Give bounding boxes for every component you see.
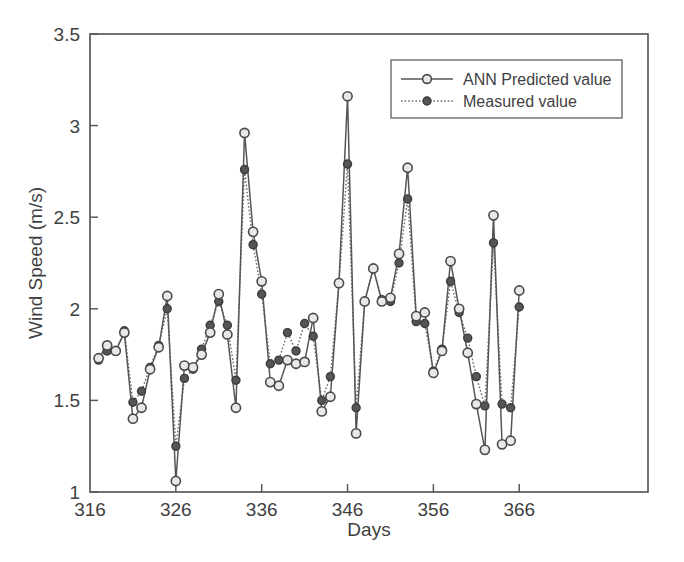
y-axis-tick-labels: 11.522.533.5 — [54, 24, 80, 503]
data-point-measured — [352, 404, 360, 412]
data-point-measured — [232, 376, 240, 384]
x-tick-label: 326 — [160, 499, 192, 520]
data-point-predicted — [94, 354, 103, 363]
data-point-predicted — [437, 346, 446, 355]
data-point-predicted — [231, 403, 240, 412]
data-point-predicted — [455, 304, 464, 313]
data-point-measured — [464, 334, 472, 342]
data-point-measured — [292, 347, 300, 355]
data-point-predicted — [249, 227, 258, 236]
data-point-predicted — [111, 346, 120, 355]
data-point-predicted — [154, 343, 163, 352]
data-point-predicted — [420, 308, 429, 317]
data-point-predicted — [480, 445, 489, 454]
data-point-predicted — [326, 392, 335, 401]
data-point-measured — [258, 290, 266, 298]
data-point-predicted — [223, 330, 232, 339]
data-point-measured — [507, 404, 515, 412]
x-axis-title: Days — [347, 519, 390, 540]
legend-label-predicted: ANN Predicted value — [463, 71, 612, 88]
data-point-predicted — [334, 279, 343, 288]
data-point-predicted — [515, 286, 524, 295]
data-point-measured — [489, 239, 497, 247]
data-point-measured — [404, 195, 412, 203]
x-axis-tick-labels: 316326336346356366 — [74, 499, 535, 520]
data-point-predicted — [429, 368, 438, 377]
data-point-predicted — [472, 399, 481, 408]
legend-swatch-measured-marker — [423, 97, 431, 105]
x-tick-label: 336 — [246, 499, 278, 520]
data-point-measured — [309, 332, 317, 340]
y-axis-title: Wind Speed (m/s) — [25, 187, 46, 339]
data-point-predicted — [309, 313, 318, 322]
data-point-predicted — [188, 363, 197, 372]
data-point-measured — [318, 396, 326, 404]
series-predicted-line — [99, 96, 520, 481]
data-point-predicted — [463, 348, 472, 357]
data-point-measured — [223, 321, 231, 329]
series-line-predicted — [99, 96, 520, 481]
data-point-predicted — [128, 414, 137, 423]
data-point-measured — [301, 319, 309, 327]
data-point-predicted — [343, 92, 352, 101]
data-point-predicted — [180, 361, 189, 370]
data-point-predicted — [291, 359, 300, 368]
data-point-predicted — [506, 436, 515, 445]
data-point-predicted — [145, 365, 154, 374]
data-point-predicted — [103, 341, 112, 350]
data-point-predicted — [386, 293, 395, 302]
data-point-predicted — [163, 291, 172, 300]
data-point-measured — [421, 319, 429, 327]
data-point-predicted — [257, 277, 266, 286]
data-point-measured — [129, 398, 137, 406]
data-point-measured — [163, 305, 171, 313]
data-point-predicted — [240, 128, 249, 137]
data-point-measured — [472, 373, 480, 381]
y-tick-label: 2 — [69, 299, 80, 320]
data-point-predicted — [489, 211, 498, 220]
data-point-measured — [138, 387, 146, 395]
x-tick-label: 346 — [332, 499, 364, 520]
data-point-measured — [326, 373, 334, 381]
data-point-predicted — [360, 297, 369, 306]
data-point-measured — [275, 356, 283, 364]
data-point-measured — [447, 277, 455, 285]
data-point-measured — [498, 400, 506, 408]
data-point-predicted — [214, 290, 223, 299]
chart-legend[interactable]: ANN Predicted value Measured value — [391, 60, 622, 118]
y-tick-label: 3 — [69, 116, 80, 137]
data-point-measured — [266, 360, 274, 368]
data-point-predicted — [137, 403, 146, 412]
data-point-predicted — [352, 429, 361, 438]
data-point-measured — [172, 442, 180, 450]
data-point-predicted — [300, 357, 309, 366]
data-point-predicted — [446, 257, 455, 266]
y-tick-label: 3.5 — [54, 24, 80, 45]
wind-speed-line-chart: 11.522.533.5 316326336346356366 Days Win… — [0, 0, 684, 562]
data-point-predicted — [120, 328, 129, 337]
x-tick-label: 316 — [74, 499, 106, 520]
data-point-measured — [283, 329, 291, 337]
data-point-measured — [395, 259, 403, 267]
y-tick-label: 1.5 — [54, 390, 80, 411]
x-axis-ticks — [176, 484, 519, 492]
data-point-predicted — [369, 264, 378, 273]
y-tick-label: 2.5 — [54, 207, 80, 228]
x-tick-label: 356 — [418, 499, 450, 520]
data-point-measured — [481, 402, 489, 410]
data-point-predicted — [403, 163, 412, 172]
legend-swatch-predicted-marker — [423, 75, 432, 84]
x-tick-label: 366 — [503, 499, 535, 520]
data-point-measured — [515, 303, 523, 311]
data-point-predicted — [197, 350, 206, 359]
chart-figure: 11.522.533.5 316326336346356366 Days Win… — [0, 0, 684, 562]
data-point-predicted — [394, 249, 403, 258]
data-point-measured — [241, 166, 249, 174]
series-predicted-markers — [94, 92, 524, 486]
data-point-predicted — [317, 407, 326, 416]
data-point-measured — [344, 160, 352, 168]
data-point-predicted — [274, 381, 283, 390]
legend-label-measured: Measured value — [463, 93, 577, 110]
data-point-predicted — [206, 328, 215, 337]
data-point-measured — [180, 374, 188, 382]
